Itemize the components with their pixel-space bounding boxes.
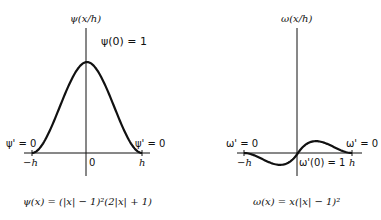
psi-curve — [32, 62, 142, 153]
psi-tick-origin: 0 — [89, 158, 95, 168]
omega-right-bc: ω' = 0 — [346, 139, 378, 149]
omega-formula: ω(x) = x(|x| − 1)² — [253, 197, 340, 207]
psi-peak-annotation: ψ(0) = 1 — [101, 36, 147, 47]
omega-tick-pos-h: h — [349, 158, 355, 168]
omega-left-bc: ω' = 0 — [226, 139, 258, 149]
omega-origin-annotation: ω'(0) = 1 — [299, 158, 345, 168]
psi-formula: ψ(x) = (|x| − 1)²(2|x| + 1) — [23, 197, 152, 207]
psi-tick-pos-h: h — [139, 158, 145, 168]
omega-tick-neg-h: −h — [237, 158, 252, 168]
psi-axis-label: ψ(x/h) — [70, 14, 101, 24]
shape-function-diagrams — [0, 0, 381, 220]
omega-axis-label: ω(x/h) — [281, 14, 312, 24]
psi-left-bc: ψ' = 0 — [6, 139, 36, 149]
psi-tick-neg-h: −h — [23, 158, 38, 168]
psi-right-bc: ψ' = 0 — [135, 139, 165, 149]
